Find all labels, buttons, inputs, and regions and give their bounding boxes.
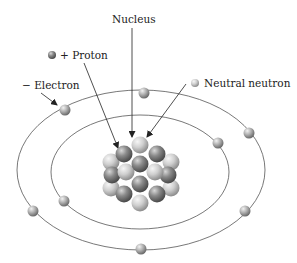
electron-arrow [41,93,57,105]
neutron-label: Neutral neutron [204,77,291,89]
electron [59,196,70,207]
proton-label: + Proton [60,49,108,61]
electron [28,206,39,217]
proton-particle [149,146,166,163]
neutron-particle [132,195,149,212]
atom-diagram: Nucleus + Proton − Electron Neutral neut… [0,0,297,263]
electron [136,244,147,255]
neutron-particle [132,137,149,154]
proton-particle [132,156,149,173]
proton-particle [116,146,133,163]
electron [240,206,251,217]
electron-label: − Electron [22,79,80,91]
electron [139,88,150,99]
proton-particle [149,186,166,203]
electron [60,105,71,116]
nucleus [103,137,180,212]
proton-arrow [84,63,118,148]
proton-particle [104,167,121,184]
neutron-particle [147,164,164,181]
neutron-legend-icon [191,79,199,87]
nucleus-label: Nucleus [112,13,156,25]
electron [213,138,224,149]
proton-legend-icon [48,51,56,59]
electron [244,128,255,139]
